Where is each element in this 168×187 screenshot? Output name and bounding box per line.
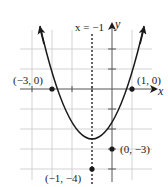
point-y-intercept xyxy=(109,146,114,151)
parabola-graph: x y x = −1 (−3, 0) (1, 0) (0, −3) (−1, −… xyxy=(0,0,168,187)
x-axis-label: x xyxy=(157,84,164,98)
point-x-intercept-left xyxy=(49,86,54,91)
label-point-1-0: (1, 0) xyxy=(137,74,161,87)
label-point-neg3-0: (−3, 0) xyxy=(13,74,43,87)
symmetry-label: x = −1 xyxy=(75,21,104,33)
point-x-intercept-right xyxy=(129,86,134,91)
grid xyxy=(20,30,152,180)
axes xyxy=(20,24,156,182)
y-axis-label: y xyxy=(114,17,121,31)
label-point-0-neg3: (0, −3) xyxy=(120,143,150,156)
point-vertex xyxy=(89,166,94,171)
label-vertex: (−1, −4) xyxy=(45,172,82,185)
